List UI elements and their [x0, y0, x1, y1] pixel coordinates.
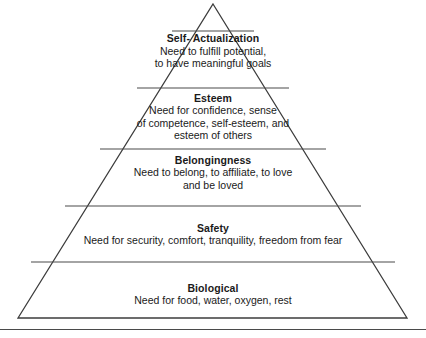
tier-title-safety: Safety [0, 222, 426, 234]
pyramid-tier-esteem: Esteem Need for confidence, sense of com… [0, 92, 426, 142]
tier-description-esteem: Need for confidence, sense of competence… [0, 104, 426, 141]
maslow-hierarchy-pyramid-diagram: Self- Actualization Need to fulfill pote… [0, 0, 426, 338]
tier-title-esteem: Esteem [0, 92, 426, 104]
bottom-horizontal-rule [0, 329, 426, 330]
tier-title-belongingness: Belongingness [0, 154, 426, 166]
tier-description-safety: Need for security, comfort, tranquility,… [0, 234, 426, 246]
tier-title-self-actualization: Self- Actualization [0, 33, 426, 45]
pyramid-tier-belongingness: Belongingness Need to belong, to affilia… [0, 154, 426, 191]
pyramid-tier-biological: Biological Need for food, water, oxygen,… [0, 282, 426, 307]
tier-description-biological: Need for food, water, oxygen, rest [0, 294, 426, 306]
tier-description-belongingness: Need to belong, to affiliate, to love an… [0, 166, 426, 191]
pyramid-tier-self-actualization: Self- Actualization Need to fulfill pote… [0, 33, 426, 70]
tier-title-biological: Biological [0, 282, 426, 294]
pyramid-tier-safety: Safety Need for security, comfort, tranq… [0, 222, 426, 247]
tier-description-self-actualization: Need to fulfill potential, to have meani… [0, 45, 426, 70]
